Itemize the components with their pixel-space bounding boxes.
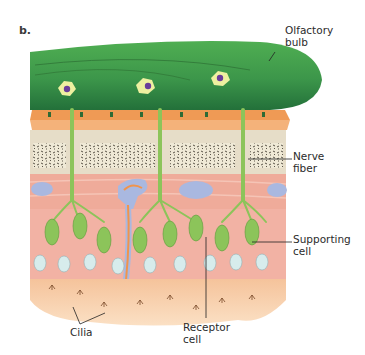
olfactory-epithelium-diagram (0, 0, 365, 355)
label-nerve-fiber: Nerve fiber (293, 150, 324, 174)
label-supporting-cell: Supporting cell (293, 233, 351, 257)
label-olfactory-bulb: Olfactory bulb (285, 24, 333, 48)
olfactory-bulb (30, 41, 322, 110)
mucus-layer (30, 279, 286, 326)
panel-letter: b. (19, 24, 31, 37)
label-receptor-cell: Receptor cell (183, 321, 230, 345)
label-cilia: Cilia (70, 326, 93, 338)
